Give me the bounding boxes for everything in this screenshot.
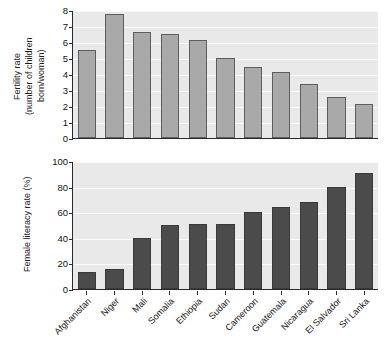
bar: [189, 224, 207, 289]
bar-slot: [267, 162, 295, 289]
bar: [272, 207, 290, 289]
bar: [327, 97, 345, 138]
bar-slot: [101, 162, 129, 289]
panel-fertility-rate: Fertility rate (number of children born/…: [0, 0, 388, 150]
x-axis-tick: [253, 291, 254, 295]
x-axis-tick: [142, 291, 143, 295]
bar-slot: [101, 11, 129, 138]
plot-area-literacy: [72, 162, 378, 290]
bar: [216, 224, 234, 289]
bar: [327, 187, 345, 289]
x-axis-tick: [86, 291, 87, 295]
bar: [355, 173, 373, 289]
bar-slot: [156, 162, 184, 289]
bar-series-fertility: [73, 11, 378, 138]
bar: [105, 14, 123, 138]
bar-slot: [323, 162, 351, 289]
bar: [161, 225, 179, 289]
bar-slot: [73, 11, 101, 138]
panel-female-literacy: Female literacy rate (%) 020406080100 Af…: [0, 150, 388, 346]
bar-slot: [350, 11, 378, 138]
x-axis-labels: AfghanistanNigerMaliSomaliaEthiopiaSudan…: [72, 291, 378, 346]
x-axis-tick: [308, 291, 309, 295]
bar: [300, 84, 318, 138]
bar-slot: [295, 11, 323, 138]
x-axis-tick: [336, 291, 337, 295]
bar-series-literacy: [73, 162, 378, 289]
bar: [244, 212, 262, 289]
bar-slot: [323, 11, 351, 138]
x-axis-tick: [114, 291, 115, 295]
y-axis-tick-label: 8: [63, 6, 68, 15]
bar: [272, 72, 290, 138]
y-axis-tick-label: 40: [57, 234, 68, 243]
bar-slot: [350, 162, 378, 289]
bar: [161, 34, 179, 138]
bar-slot: [295, 162, 323, 289]
y-axis-title-fertility-line3: born/woman): [36, 6, 48, 146]
y-axis-title-fertility: Fertility rate: [12, 6, 24, 146]
bar-slot: [267, 11, 295, 138]
bar: [133, 238, 151, 289]
y-axis-tick-label: 4: [63, 70, 68, 79]
bar-slot: [184, 11, 212, 138]
bar: [105, 269, 123, 289]
bar: [244, 67, 262, 138]
y-axis-tick-label: 6: [63, 38, 68, 47]
y-axis-title-fertility-line2: (number of children: [24, 6, 36, 146]
bar: [216, 58, 234, 138]
y-axis-tick-label: 0: [63, 285, 68, 294]
y-axis-tick-label: 7: [63, 22, 68, 31]
y-axis-title-line1: Fertility rate: [12, 53, 22, 100]
bar-slot: [212, 162, 240, 289]
bar-slot: [239, 11, 267, 138]
bar: [189, 40, 207, 138]
y-axis-tick: [69, 139, 73, 140]
y-axis-title-literacy: Female literacy rate (%): [22, 158, 36, 290]
y-axis-tick-label: 2: [63, 102, 68, 111]
bar-slot: [128, 11, 156, 138]
bar-slot: [184, 162, 212, 289]
bar: [300, 202, 318, 289]
y-axis-tick-label: 0: [63, 134, 68, 143]
y-axis-tick-label: 5: [63, 54, 68, 63]
x-axis-tick: [281, 291, 282, 295]
bar: [355, 104, 373, 138]
bar-slot: [128, 162, 156, 289]
bar-slot: [73, 162, 101, 289]
bar-slot: [239, 162, 267, 289]
y-axis-tick-label: 1: [63, 118, 68, 127]
y-axis-title-text: Female literacy rate (%): [22, 176, 32, 272]
y-axis-title-line3: born/woman): [36, 50, 46, 103]
bar: [78, 272, 96, 289]
y-axis-tick-label: 100: [52, 157, 68, 166]
y-axis-tick-label: 20: [57, 259, 68, 268]
plot-area-fertility: [72, 11, 378, 139]
y-axis-ticklabels-literacy: 020406080100: [40, 150, 68, 300]
bar: [78, 50, 96, 138]
y-axis-tick-label: 3: [63, 86, 68, 95]
bar-slot: [156, 11, 184, 138]
bar: [133, 32, 151, 138]
x-axis-tick: [169, 291, 170, 295]
x-axis-tick: [225, 291, 226, 295]
y-axis-tick-label: 80: [57, 183, 68, 192]
y-axis-title-line2: (number of children: [24, 37, 34, 115]
y-axis-tick-label: 60: [57, 208, 68, 217]
figure-two-panel-bar-charts: Fertility rate (number of children born/…: [0, 0, 388, 346]
y-axis-ticklabels-fertility: 012345678: [48, 0, 68, 150]
bar-slot: [212, 11, 240, 138]
x-axis-tick: [364, 291, 365, 295]
x-axis-tick: [197, 291, 198, 295]
